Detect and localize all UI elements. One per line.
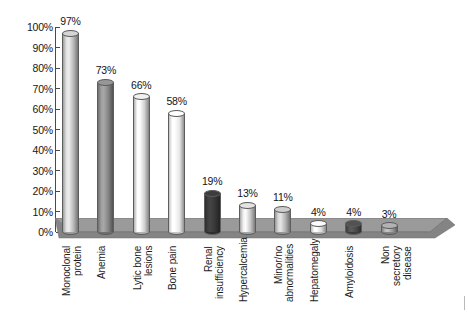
bar-1[interactable]: 97% xyxy=(62,33,79,232)
corner-artifact xyxy=(464,296,465,310)
x-axis-label-10: Non secretory disease xyxy=(380,246,397,302)
bar-value-label: 73% xyxy=(96,64,116,76)
bar-body xyxy=(239,205,256,232)
bar-body xyxy=(62,33,79,232)
bar-5[interactable]: 19% xyxy=(204,193,221,232)
bar-body xyxy=(97,82,114,232)
bar-top-ellipse xyxy=(168,110,185,117)
bar-top-ellipse xyxy=(62,30,79,37)
x-axis-label-2: Anemia xyxy=(96,246,113,302)
bar-body xyxy=(168,113,185,232)
bar-6[interactable]: 13% xyxy=(239,205,256,232)
bar-2[interactable]: 73% xyxy=(97,82,114,232)
x-axis-label-6: Hypercalcemia xyxy=(238,246,255,302)
bar-value-label: 4% xyxy=(311,206,326,218)
bar-value-label: 19% xyxy=(202,175,222,187)
bar-chart: 0%10%20%30%40%50%60%70%80%90%100% 97%73%… xyxy=(0,0,468,328)
x-axis-label-7: Minor/no abnormalities xyxy=(273,246,290,302)
x-axis-label-9: Amyloidosis xyxy=(344,246,361,302)
bar-value-label: 97% xyxy=(60,15,80,27)
x-axis-label-4: Bone pain xyxy=(167,246,184,302)
bar-body xyxy=(204,193,221,232)
bar-value-label: 3% xyxy=(382,208,397,220)
bar-9[interactable]: 4% xyxy=(345,224,362,232)
bar-3[interactable]: 66% xyxy=(133,97,150,232)
bar-7[interactable]: 11% xyxy=(274,209,291,232)
x-axis-label-1: Monoclonal protein xyxy=(61,246,78,302)
bar-value-label: 11% xyxy=(273,191,293,203)
bar-8[interactable]: 4% xyxy=(310,224,327,232)
bar-10[interactable]: 3% xyxy=(381,226,398,232)
bar-value-label: 58% xyxy=(166,95,186,107)
bar-top-ellipse xyxy=(204,190,221,197)
x-axis-label-5: Renal insufficiency xyxy=(203,246,220,302)
bar-top-ellipse xyxy=(97,79,114,86)
x-axis-label-3: Lytic bone lesions xyxy=(132,246,149,302)
bar-value-label: 66% xyxy=(131,79,151,91)
bar-body xyxy=(133,97,150,232)
bar-value-label: 13% xyxy=(237,187,257,199)
x-axis-label-8: Hepatomegaly xyxy=(309,246,326,302)
bar-top-ellipse xyxy=(239,202,256,209)
bar-value-label: 4% xyxy=(346,206,361,218)
bar-4[interactable]: 58% xyxy=(168,113,185,232)
